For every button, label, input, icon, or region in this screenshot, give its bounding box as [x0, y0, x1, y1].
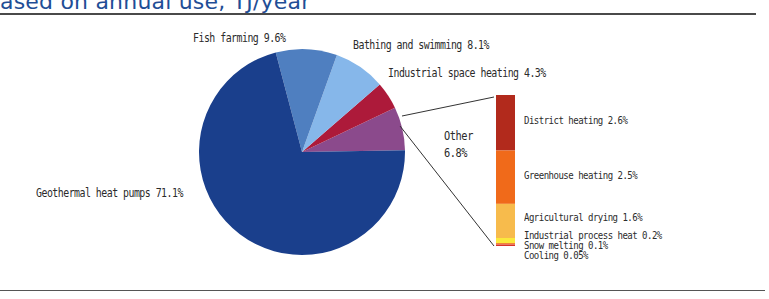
bar-segment-district-heating: [496, 95, 515, 150]
bar-segment-agricultural-drying: [496, 204, 515, 238]
label-other-name: Other: [444, 128, 473, 145]
label-geothermal-heat-pumps: Geothermal heat pumps 71.1%: [36, 186, 183, 200]
bar-segment-greenhouse-heating: [496, 150, 515, 203]
bar-segment-cooling: [496, 245, 515, 247]
label-other-value: 6.8%: [444, 145, 473, 162]
bar-segment-industrial-process-heat: [496, 238, 515, 243]
bar-segment-snow-melting: [496, 243, 515, 245]
label-greenhouse-heating: Greenhouse heating 2.5%: [524, 169, 637, 181]
label-cooling: Cooling 0.05%: [524, 249, 588, 261]
label-district-heating: District heating 2.6%: [524, 114, 627, 126]
label-industrial-space-heating: Industrial space heating 4.3%: [388, 66, 546, 80]
label-agricultural-drying: Agricultural drying 1.6%: [524, 211, 642, 223]
label-fish-farming: Fish farming 9.6%: [193, 31, 285, 45]
label-bathing-swimming: Bathing and swimming 8.1%: [353, 38, 489, 52]
label-other: Other 6.8%: [444, 128, 473, 162]
connector-line-top: [402, 97, 494, 116]
